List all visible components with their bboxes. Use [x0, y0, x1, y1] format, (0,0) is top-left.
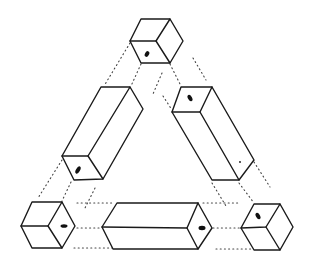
right-prism	[172, 87, 254, 180]
bottom-prism	[102, 203, 212, 249]
hole-mark	[199, 226, 206, 230]
dot-mark	[239, 161, 241, 163]
top-cube	[130, 19, 183, 63]
left-prism	[62, 87, 143, 180]
bottom-left-cube	[21, 202, 75, 248]
impossible-triangle-diagram	[0, 0, 309, 267]
hole-mark	[61, 224, 68, 228]
bottom-right-cube	[241, 204, 293, 250]
